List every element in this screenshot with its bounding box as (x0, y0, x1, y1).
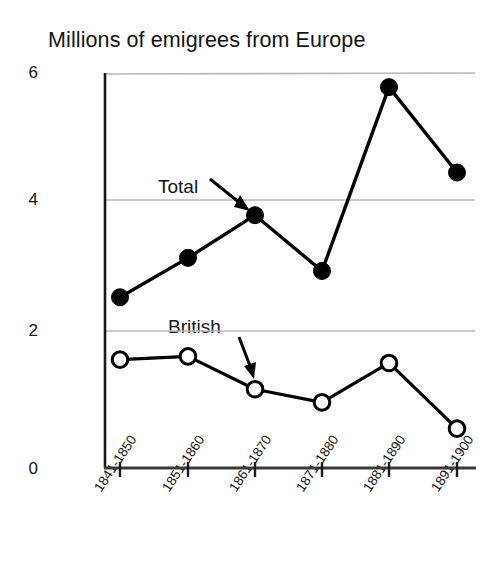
axes (104, 73, 476, 468)
series-line-total (120, 87, 457, 297)
series-markers-british (112, 349, 465, 437)
data-point-marker (180, 249, 197, 266)
plot-area (0, 0, 488, 585)
annotation-arrow-british-head (244, 362, 256, 379)
data-point-marker (180, 349, 196, 365)
data-point-marker (314, 395, 330, 411)
series-line-british (120, 356, 457, 428)
gridlines (104, 73, 475, 331)
series-british (112, 349, 465, 437)
data-point-marker (247, 381, 263, 397)
data-point-marker (381, 79, 398, 96)
annotation-arrow-total-head (234, 195, 250, 211)
data-point-marker (449, 164, 466, 181)
series-total (112, 79, 466, 306)
data-point-marker (247, 207, 264, 224)
gridline-6 (104, 73, 475, 74)
data-point-marker (112, 352, 128, 368)
data-point-marker (381, 355, 397, 371)
annotation-arrow-total (210, 179, 250, 211)
data-point-marker (112, 289, 129, 306)
chart-container: Millions of emigrees from Europe 6 4 2 0… (0, 0, 488, 585)
data-point-marker (314, 263, 331, 280)
data-point-marker (449, 421, 465, 437)
annotation-arrow-british (239, 337, 256, 379)
